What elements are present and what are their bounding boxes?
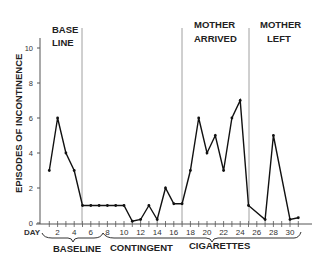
data-point bbox=[156, 218, 159, 221]
y-axis-label: EPISODES OF INCONTINENCE bbox=[13, 54, 24, 193]
data-point bbox=[56, 117, 59, 120]
data-point bbox=[114, 204, 117, 207]
data-point bbox=[297, 216, 300, 219]
bracket-label-cigarettes: CIGARETTES bbox=[189, 240, 250, 251]
y-tick-label: 0 bbox=[29, 219, 33, 228]
data-point bbox=[272, 134, 275, 137]
data-point bbox=[73, 169, 76, 172]
x-axis-label: DAY bbox=[24, 228, 41, 237]
data-markers bbox=[48, 99, 300, 223]
data-point bbox=[48, 169, 51, 172]
x-tick-label: 20 bbox=[203, 228, 212, 237]
phase-lines bbox=[82, 28, 249, 224]
data-point bbox=[139, 218, 142, 221]
y-ticks: 0246810 bbox=[25, 44, 40, 228]
phase-label-mother-arrived-1: MOTHER bbox=[194, 19, 235, 30]
y-tick-label: 2 bbox=[29, 184, 33, 193]
x-tick-label: 28 bbox=[269, 228, 278, 237]
data-point bbox=[247, 204, 250, 207]
data-point bbox=[89, 204, 92, 207]
data-point bbox=[264, 218, 267, 221]
phase-label-baseline-2: LINE bbox=[52, 37, 74, 48]
data-point bbox=[189, 169, 192, 172]
data-point bbox=[98, 204, 101, 207]
data-point bbox=[197, 117, 200, 120]
data-point bbox=[131, 220, 134, 223]
y-tick-label: 10 bbox=[25, 44, 33, 53]
x-tick-label: 24 bbox=[236, 228, 245, 237]
data-point bbox=[214, 134, 217, 137]
y-tick-label: 6 bbox=[29, 114, 33, 123]
data-point bbox=[181, 202, 184, 205]
y-tick-label: 4 bbox=[29, 149, 33, 158]
x-tick-label: 16 bbox=[169, 228, 178, 237]
phase-label-mother-left-1: MOTHER bbox=[260, 19, 301, 30]
bracket-label-contingent: CONTINGENT bbox=[110, 242, 173, 253]
line-chart: 0246810 24681012141618202224262830 EPISO… bbox=[0, 0, 326, 268]
x-tick-label: 4 bbox=[72, 228, 77, 237]
x-tick-label: 2 bbox=[55, 228, 60, 237]
data-point bbox=[206, 152, 209, 155]
x-tick-label: 12 bbox=[136, 228, 145, 237]
data-point bbox=[172, 202, 175, 205]
x-tick-label: 10 bbox=[120, 228, 129, 237]
data-point bbox=[148, 204, 151, 207]
data-point bbox=[222, 169, 225, 172]
phase-label-mother-left-2: LEFT bbox=[267, 33, 291, 44]
data-point bbox=[239, 99, 242, 102]
phase-label-mother-arrived-2: ARRIVED bbox=[194, 33, 237, 44]
phase-label-baseline-1: BASE bbox=[52, 24, 78, 35]
data-point bbox=[289, 218, 292, 221]
x-tick-label: 18 bbox=[186, 228, 195, 237]
data-point bbox=[164, 187, 167, 190]
data-point bbox=[106, 204, 109, 207]
data-point bbox=[231, 117, 234, 120]
x-tick-label: 22 bbox=[219, 228, 228, 237]
bracket-label-baseline: BASELINE bbox=[53, 243, 101, 254]
x-tick-label: 30 bbox=[286, 228, 295, 237]
x-tick-label: 14 bbox=[153, 228, 162, 237]
x-ticks: 24681012141618202224262830 bbox=[49, 221, 298, 237]
data-point bbox=[81, 204, 84, 207]
x-tick-label: 6 bbox=[89, 228, 94, 237]
data-point bbox=[123, 204, 126, 207]
y-tick-label: 8 bbox=[29, 79, 33, 88]
x-tick-label: 26 bbox=[252, 228, 261, 237]
data-point bbox=[65, 152, 68, 155]
